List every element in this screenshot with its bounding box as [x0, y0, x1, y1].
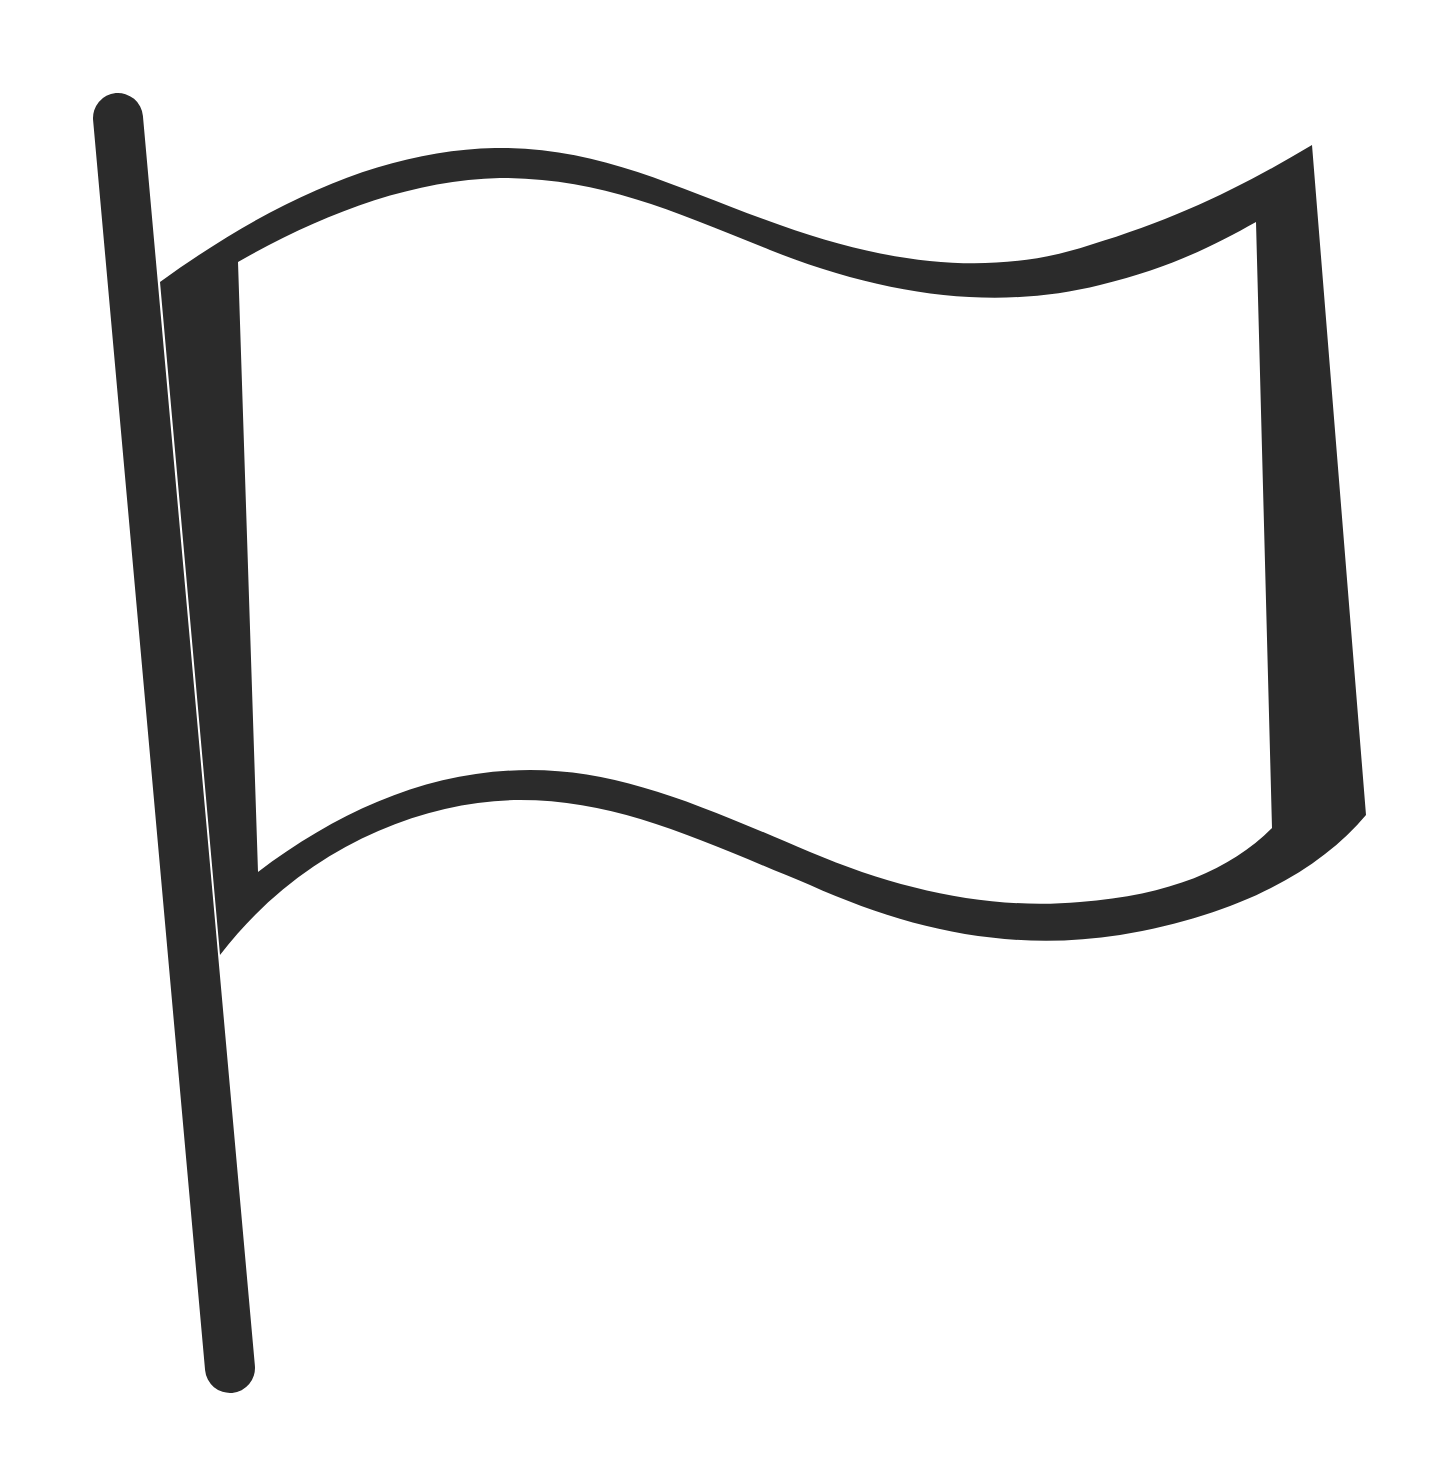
flag-icon	[0, 0, 1448, 1477]
icon-canvas	[0, 0, 1448, 1477]
flag-cloth-inner	[238, 178, 1272, 904]
